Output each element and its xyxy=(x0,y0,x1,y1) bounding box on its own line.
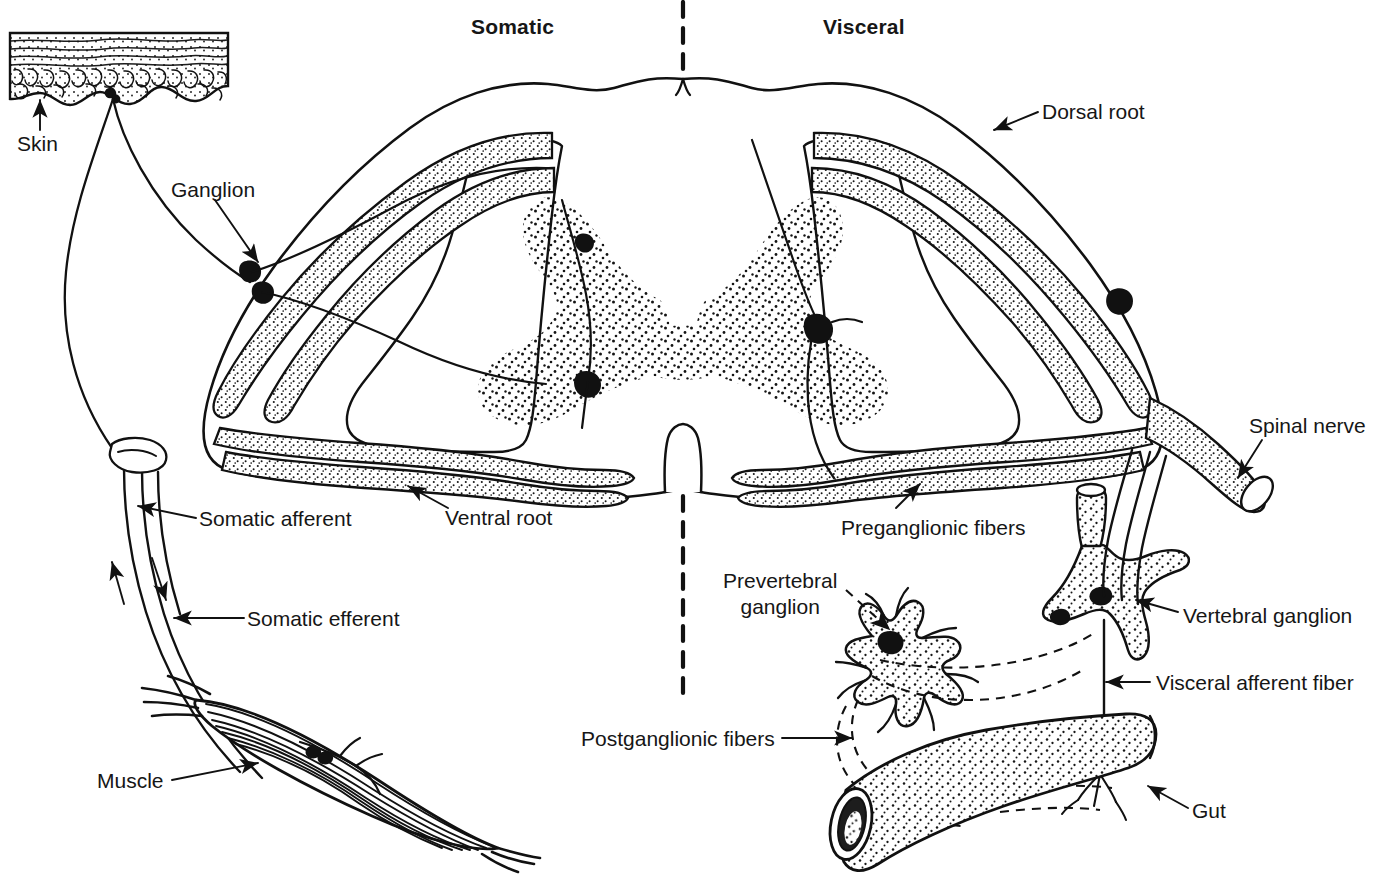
label-prevertebral-ganglion-line2: ganglion xyxy=(723,594,837,620)
root-junction-left xyxy=(110,438,167,473)
dorsal-root-ganglion-cell-right xyxy=(1106,288,1133,315)
afferent-direction-arrow xyxy=(112,562,124,604)
label-dorsal-root: Dorsal root xyxy=(1042,99,1145,124)
leader-ganglion xyxy=(215,200,258,262)
label-somatic-afferent: Somatic afferent xyxy=(199,506,352,531)
label-vertebral-ganglion: Vertebral ganglion xyxy=(1183,603,1352,628)
label-somatic-efferent: Somatic efferent xyxy=(247,606,400,631)
label-muscle: Muscle xyxy=(97,768,164,793)
label-spinal-nerve: Spinal nerve xyxy=(1249,413,1366,438)
header-somatic: Somatic xyxy=(471,14,554,39)
spinal-cord-outline xyxy=(204,78,1163,498)
label-prevertebral-ganglion-line1: Prevertebral xyxy=(723,568,837,594)
leader-somatic-afferent xyxy=(138,506,196,518)
gut-tube xyxy=(824,714,1156,871)
leader-spinal-nerve xyxy=(1238,440,1262,478)
label-ventral-root: Ventral root xyxy=(445,505,552,530)
label-ganglion: Ganglion xyxy=(171,177,255,202)
label-gut: Gut xyxy=(1192,798,1226,823)
label-postganglionic-fibers: Postganglionic fibers xyxy=(581,726,775,751)
figure-canvas: Somatic Visceral Skin Ganglion Somatic a… xyxy=(0,0,1375,875)
label-preganglionic-fibers: Preganglionic fibers xyxy=(841,515,1025,540)
skin-patch xyxy=(10,33,228,105)
leader-muscle xyxy=(172,763,258,780)
prevertebral-ganglion xyxy=(836,588,978,732)
label-skin: Skin xyxy=(17,131,58,156)
label-visceral-afferent-fiber: Visceral afferent fiber xyxy=(1156,670,1354,695)
leader-gut xyxy=(1148,786,1188,808)
header-visceral: Visceral xyxy=(823,14,905,39)
leader-dorsal-root xyxy=(994,112,1038,130)
